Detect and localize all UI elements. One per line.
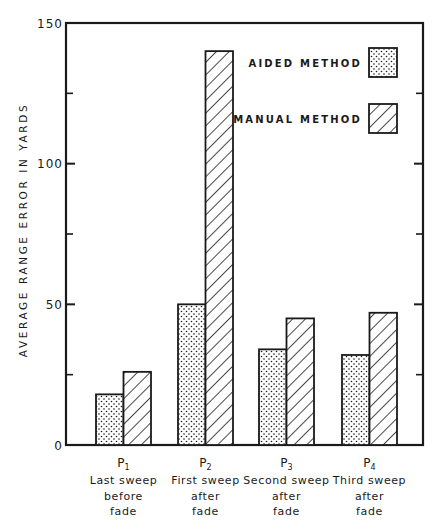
legend-swatch-aided — [369, 48, 397, 77]
category-label-line: Second sweep — [243, 474, 329, 487]
y-tick-label: 0 — [54, 439, 63, 453]
category-code-p2: P2 — [199, 456, 211, 472]
category-code-p1: P1 — [117, 456, 129, 472]
bar-aided-p2 — [178, 304, 206, 445]
y-axis-label: AVERAGE RANGE ERROR IN YARDS — [17, 103, 29, 357]
y-tick-label: 100 — [37, 157, 63, 171]
category-label-line: Third sweep — [332, 474, 406, 487]
category-label-line: after — [272, 490, 301, 503]
category-label-line: fade — [110, 505, 137, 518]
category-code-p3: P3 — [280, 456, 292, 472]
bar-manual-p4 — [370, 313, 398, 445]
bar-aided-p4 — [342, 355, 370, 445]
legend-label-manual: MANUAL METHOD — [233, 114, 362, 125]
category-code-p4: P4 — [363, 456, 375, 472]
bar-aided-p1 — [96, 394, 124, 445]
legend: AIDED METHODMANUAL METHOD — [233, 48, 397, 133]
category-label-line: First sweep — [171, 474, 240, 487]
bar-series — [96, 51, 397, 445]
category-label-line: before — [104, 490, 143, 503]
legend-swatch-manual — [369, 104, 397, 133]
x-axis-category-labels: P1Last sweepbeforefadeP2First sweepafter… — [90, 456, 407, 518]
y-axis-title: AVERAGE RANGE ERROR IN YARDS — [17, 103, 29, 357]
category-label-line: fade — [356, 505, 383, 518]
chart-canvas: AVERAGE RANGE ERROR IN YARDS 050100150 A… — [0, 0, 439, 532]
bar-manual-p3 — [287, 318, 315, 445]
bar-chart: AVERAGE RANGE ERROR IN YARDS 050100150 A… — [0, 0, 439, 532]
legend-label-aided: AIDED METHOD — [248, 58, 362, 69]
category-label-line: after — [355, 490, 384, 503]
category-label-line: Last sweep — [90, 474, 158, 487]
y-tick-label: 50 — [46, 298, 63, 312]
category-label-line: fade — [273, 505, 300, 518]
y-tick-label: 150 — [37, 17, 63, 31]
category-label-line: fade — [192, 505, 219, 518]
category-label-line: after — [191, 490, 220, 503]
bar-manual-p1 — [124, 372, 152, 445]
bar-manual-p2 — [206, 51, 234, 445]
bar-aided-p3 — [259, 349, 287, 445]
